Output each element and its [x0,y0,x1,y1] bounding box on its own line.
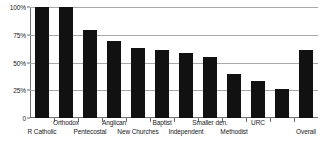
bar [131,48,145,118]
bar [275,89,289,118]
x-axis-labels: R CatholicOrthodoxPentecostalAnglicanNew… [30,118,318,146]
y-axis-tick-label: 100% [10,4,26,11]
bar-slot [150,7,174,118]
bar-chart: 100%75%50%25%0 R CatholicOrthodoxPenteco… [0,0,326,146]
x-axis-label: R Catholic [28,128,57,135]
x-axis-label: Smaller den. [192,119,227,126]
bar-slot [54,7,78,118]
bar-slot [102,7,126,118]
x-axis-label: Overall [296,128,316,135]
bar [251,81,265,118]
bar-slot [294,7,318,118]
bar [179,53,193,118]
x-axis-label: Pentecostal [74,128,107,135]
y-axis-tick-label: 25% [13,87,26,94]
bar-slot [222,7,246,118]
y-axis-tick-label: 50% [13,59,26,66]
x-axis-label: Anglican [102,119,126,126]
bar [203,57,217,118]
bar [83,30,97,118]
bar [107,41,121,118]
x-axis-label: Orthodox [53,119,79,126]
plot-area: 100%75%50%25%0 [30,7,318,118]
bar-slot [126,7,150,118]
bar [155,50,169,118]
x-axis-label: URC [251,119,265,126]
bar-slot [78,7,102,118]
bars-series [30,7,318,118]
y-axis-tick-label: 75% [13,31,26,38]
bar [35,7,49,118]
bar-slot [174,7,198,118]
bar [227,74,241,118]
y-axis-tick-label: 0 [22,115,26,122]
bar [59,7,73,118]
bar-slot [30,7,54,118]
bar-slot [246,7,270,118]
x-axis-label: Methodist [220,128,247,135]
x-axis-label: Independent [168,128,203,135]
bar [299,50,313,118]
bar-slot [270,7,294,118]
bar-slot [198,7,222,118]
x-axis-label: Baptist [152,119,171,126]
x-axis-label: New Churches [117,128,158,135]
